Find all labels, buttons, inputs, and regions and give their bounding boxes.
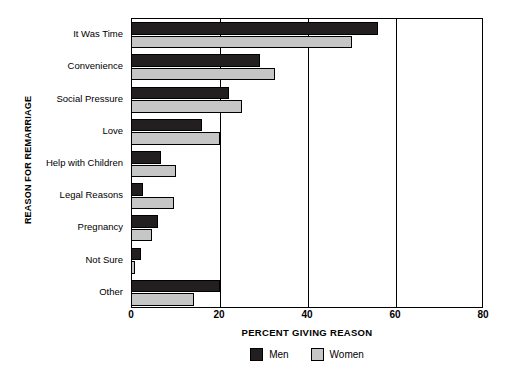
bar-men-1 xyxy=(132,54,260,67)
legend-item-men[interactable]: Men xyxy=(250,348,288,361)
legend-label-women: Women xyxy=(330,349,364,360)
legend-swatch-men-icon xyxy=(250,348,263,361)
x-tick-label-4: 80 xyxy=(463,309,503,320)
bar-men-8 xyxy=(132,280,220,293)
category-label-4: Help with Children xyxy=(13,157,123,168)
x-tick-label-0: 0 xyxy=(111,309,151,320)
x-tick-label-1: 20 xyxy=(199,309,239,320)
x-tick-label-2: 40 xyxy=(287,309,327,320)
bar-women-2 xyxy=(132,100,242,113)
legend-item-women[interactable]: Women xyxy=(311,348,364,361)
bar-men-3 xyxy=(132,119,202,132)
category-label-5: Legal Reasons xyxy=(13,189,123,200)
category-label-3: Love xyxy=(13,125,123,136)
bar-men-4 xyxy=(132,151,161,164)
bar-men-5 xyxy=(132,183,143,196)
legend-label-men: Men xyxy=(269,349,288,360)
bar-men-2 xyxy=(132,87,229,100)
bar-women-7 xyxy=(132,261,135,274)
plot-area xyxy=(131,18,483,308)
bar-women-4 xyxy=(132,165,176,178)
bar-women-6 xyxy=(132,229,152,242)
bar-women-0 xyxy=(132,36,352,49)
category-label-1: Convenience xyxy=(13,60,123,71)
bar-women-8 xyxy=(132,293,194,306)
category-label-7: Not Sure xyxy=(13,254,123,265)
x-tick-label-3: 60 xyxy=(375,309,415,320)
gridline xyxy=(396,19,397,307)
category-label-2: Social Pressure xyxy=(13,93,123,104)
category-label-6: Pregnancy xyxy=(13,221,123,232)
gridline xyxy=(308,19,309,307)
category-label-0: It Was Time xyxy=(13,28,123,39)
bar-men-0 xyxy=(132,22,378,35)
x-axis-title: PERCENT GIVING REASON xyxy=(131,327,483,338)
bar-women-5 xyxy=(132,197,174,210)
legend-swatch-women-icon xyxy=(311,348,324,361)
chart-figure: REASON FOR REMARRIAGE It Was TimeConveni… xyxy=(0,0,507,381)
bar-women-1 xyxy=(132,68,275,81)
x-axis-ticks: 020406080 xyxy=(131,309,483,325)
bar-women-3 xyxy=(132,132,220,145)
category-axis-labels: It Was TimeConvenienceSocial PressureLov… xyxy=(14,18,127,308)
chart-legend: MenWomen xyxy=(131,348,483,361)
bar-men-7 xyxy=(132,248,141,261)
category-label-8: Other xyxy=(13,286,123,297)
bar-men-6 xyxy=(132,215,158,228)
